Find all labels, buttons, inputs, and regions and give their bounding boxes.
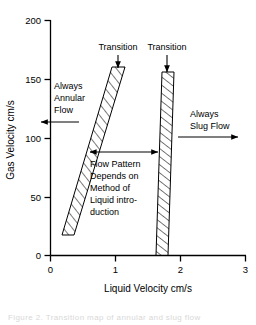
figure-root: 200 150 100 50 0 0 1 2 3 Liquid Velocity… (0, 0, 256, 325)
always-annular-line-3: Flow (54, 105, 74, 115)
slug-transition-band (156, 72, 174, 255)
y-tick-label-200: 200 (25, 15, 41, 26)
figure-caption: Figure 2. Transition map of annular and … (0, 313, 256, 325)
x-axis-ticks (51, 256, 246, 262)
y-tick-label-50: 50 (30, 192, 41, 203)
transition-label-left: Transition (98, 42, 137, 52)
flow-pattern-line-5: duction (90, 207, 119, 217)
y-axis-title: Gas Velocity cm/s (5, 100, 16, 179)
flow-pattern-line-1: Flow Pattern (90, 159, 141, 169)
always-slug-flow-group: Always Slug Flow (178, 109, 238, 137)
x-axis-tick-labels: 0 1 2 3 (48, 264, 248, 275)
x-tick-label-0: 0 (48, 264, 53, 275)
y-tick-label-150: 150 (25, 74, 41, 85)
y-axis-tick-labels: 200 150 100 50 0 (25, 15, 41, 261)
axis-lines (51, 20, 247, 256)
x-tick-label-2: 2 (178, 264, 183, 275)
y-tick-label-100: 100 (25, 133, 41, 144)
always-annular-flow-group: Always Annular Flow (41, 81, 85, 122)
x-tick-label-1: 1 (113, 264, 118, 275)
transition-label-right: Transition (147, 42, 186, 52)
flow-pattern-note-group: Flow Pattern Depends on Method of Liquid… (90, 152, 158, 217)
transition-label-right-group: Transition (147, 42, 186, 72)
always-slug-line-2: Slug Flow (190, 121, 230, 131)
always-annular-line-2: Annular (54, 93, 85, 103)
flow-pattern-line-2: Depends on (90, 171, 139, 181)
y-tick-label-0: 0 (36, 250, 41, 261)
flow-pattern-line-4: Liquid intro- (90, 195, 137, 205)
flow-pattern-transition-chart: 200 150 100 50 0 0 1 2 3 Liquid Velocity… (0, 0, 256, 325)
always-slug-line-1: Always (190, 109, 219, 119)
flow-pattern-line-3: Method of (90, 183, 131, 193)
always-annular-line-1: Always (54, 81, 83, 91)
x-axis-title: Liquid Velocity cm/s (104, 283, 192, 294)
x-tick-label-3: 3 (243, 264, 248, 275)
transition-label-left-group: Transition (98, 42, 137, 68)
y-axis-ticks (45, 21, 51, 256)
